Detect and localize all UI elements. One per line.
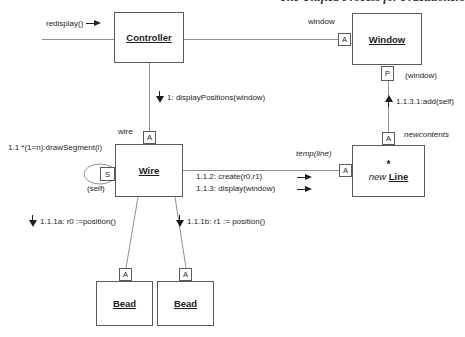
msg-r0-position-text: 1.1.1a: r0 :=position() [40,217,116,226]
line-new-keyword: new [369,171,386,182]
bead2-label: Bead [174,298,197,309]
msg-add-self-text: 1.1.3.1:add(self) [396,97,454,106]
qualifier-a-wire: A [143,131,156,144]
role-window-ref: (window) [405,71,437,80]
arrow-up-icon [384,95,393,107]
arrow-right-icon-create [297,173,312,182]
line-label: Line [389,171,409,182]
bead1-label: Bead [113,298,136,309]
line-node-content: * new Line [369,159,409,183]
qualifier-a-window: A [338,33,351,46]
line-name-row: new Line [369,171,409,183]
line-node: * new Line [352,145,425,197]
window-label: Window [369,34,405,45]
role-newcontents: newcontents [404,130,449,139]
msg-r1-position: 1.1.1b: r1 := position() [175,215,265,227]
page-header-fragment: The Unified Process for Practitioners [253,0,465,4]
qualifier-a-line-left: A [339,164,352,177]
controller-node: Controller [114,12,184,63]
link-left-to-controller [42,39,114,40]
link-wire-to-bead2 [175,197,186,268]
msg-redisplay: redisplay() [46,19,101,28]
window-node: Window [352,13,422,65]
link-wire-to-line [183,170,339,171]
msg-display-window: 1.1.3: display(window) [196,184,275,193]
link-controller-to-wire [149,63,150,131]
qualifier-p-window: P [381,66,394,81]
qualifier-a-line-top: A [382,132,395,145]
msg-draw-segment: 1.1 *(1=n):drawSegment(i) [8,143,102,152]
link-controller-to-window [184,39,338,40]
page-header-text: The Unified Process for Practitioners [253,0,465,4]
wire-node: Wire [115,144,183,197]
role-wire: wire [118,127,133,136]
arrow-down-icon [155,91,164,103]
arrow-down-icon-r0 [28,215,37,227]
msg-display-positions: 1: displayPositions(window) [155,91,265,103]
line-multiplicity: * [387,159,391,172]
arrow-right-icon-display [297,185,312,194]
msg-r0-position: 1.1.1a: r0 :=position() [28,215,116,227]
bead2-node: Bead [157,281,214,326]
controller-label: Controller [126,32,171,43]
msg-add-self: 1.1.3.1:add(self) [384,95,454,107]
wire-label: Wire [139,165,160,176]
qualifier-s-wire: S [100,167,115,181]
role-window: window [308,17,335,26]
role-temp-line: temp(line) [296,149,332,158]
link-wire-to-bead1 [126,197,138,268]
role-self-ref: (self) [87,184,105,193]
msg-redisplay-text: redisplay() [46,19,83,28]
msg-display-positions-text: 1: displayPositions(window) [167,93,265,102]
bead1-node: Bead [96,281,153,326]
qualifier-a-bead2: A [179,268,192,281]
arrow-down-icon-r1 [175,215,184,227]
arrow-right-icon [86,19,101,28]
msg-r1-position-text: 1.1.1b: r1 := position() [187,217,265,226]
uml-collaboration-diagram: The Unified Process for Practitioners Co… [0,0,465,337]
msg-create: 1.1.2: create(r0,r1) [196,172,262,181]
qualifier-a-bead1: A [119,268,132,281]
